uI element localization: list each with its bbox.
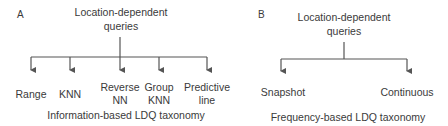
child-node-continuous: Continuous xyxy=(380,86,433,98)
child-node-range: Range xyxy=(16,88,47,100)
child-node-predictive-line-line1: Predictive xyxy=(184,81,230,93)
child-node-knn: KNN xyxy=(59,88,81,100)
child-node-snapshot: Snapshot xyxy=(261,86,305,98)
root-node-b-line1: Location-dependent xyxy=(298,11,391,23)
child-node-reverse-nn-line1: Reverse xyxy=(100,81,139,93)
panel-label-b: B xyxy=(258,9,265,21)
root-node-b-line2: queries xyxy=(327,25,361,37)
panel-label-a: A xyxy=(17,9,24,21)
root-node-a-line2: queries xyxy=(104,20,138,32)
caption-a: Information-based LDQ taxonomy xyxy=(47,109,205,121)
child-node-group-knn-line1: Group xyxy=(144,81,173,93)
root-node-a-line1: Location-dependent xyxy=(75,6,168,18)
child-node-predictive-line-line2: line xyxy=(199,94,215,106)
caption-b: Frequency-based LDQ taxonomy xyxy=(271,111,426,123)
child-node-reverse-nn-line2: NN xyxy=(112,94,127,106)
child-node-group-knn-line2: KNN xyxy=(148,94,170,106)
